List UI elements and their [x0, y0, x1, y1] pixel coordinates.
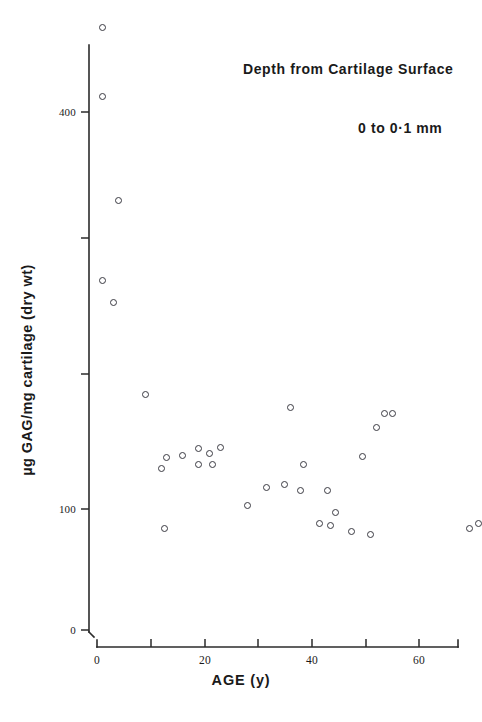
data-point	[142, 391, 149, 398]
data-point	[348, 528, 355, 535]
y-axis-title-text: µg GAG/mg cartilage (dry wt)	[19, 264, 35, 475]
data-point	[99, 24, 106, 31]
data-point	[217, 444, 224, 451]
y-tick-label-0: 0	[40, 624, 76, 636]
x-axis-title: AGE (y)	[0, 672, 482, 688]
data-point	[179, 452, 186, 459]
data-point	[332, 509, 339, 516]
data-point	[327, 522, 334, 529]
x-tick-label-0: 0	[94, 654, 100, 666]
data-point	[99, 93, 106, 100]
data-point	[324, 487, 331, 494]
y-tick-label-100: 100	[40, 503, 76, 515]
x-tick-label-20: 20	[199, 654, 211, 666]
y-axis-title: µg GAG/mg cartilage (dry wt)	[12, 250, 42, 490]
data-point	[263, 484, 270, 491]
data-point	[110, 299, 117, 306]
scatter-plot-figure: 400 100 0 0 20 40 60 µg GAG/mg cartilage…	[0, 0, 482, 722]
data-point	[300, 461, 307, 468]
data-point	[158, 465, 165, 472]
data-point	[297, 487, 304, 494]
data-point	[389, 410, 396, 417]
data-point	[244, 502, 251, 509]
plot-data-area	[97, 45, 458, 630]
data-point	[209, 461, 216, 468]
data-point	[287, 404, 294, 411]
x-tick-label-60: 60	[413, 654, 425, 666]
data-point	[316, 520, 323, 527]
y-axis-foot	[89, 632, 94, 637]
x-tick-label-40: 40	[306, 654, 318, 666]
data-point	[381, 410, 388, 417]
data-point	[367, 531, 374, 538]
data-point	[161, 525, 168, 532]
data-point	[466, 525, 473, 532]
data-point	[475, 520, 482, 527]
data-point	[195, 445, 202, 452]
data-point	[206, 450, 213, 457]
data-point	[115, 197, 122, 204]
data-point	[373, 424, 380, 431]
data-point	[163, 454, 170, 461]
data-point	[99, 277, 106, 284]
data-point	[195, 461, 202, 468]
data-point	[359, 453, 366, 460]
y-tick-label-400: 400	[40, 106, 76, 118]
data-point	[281, 481, 288, 488]
